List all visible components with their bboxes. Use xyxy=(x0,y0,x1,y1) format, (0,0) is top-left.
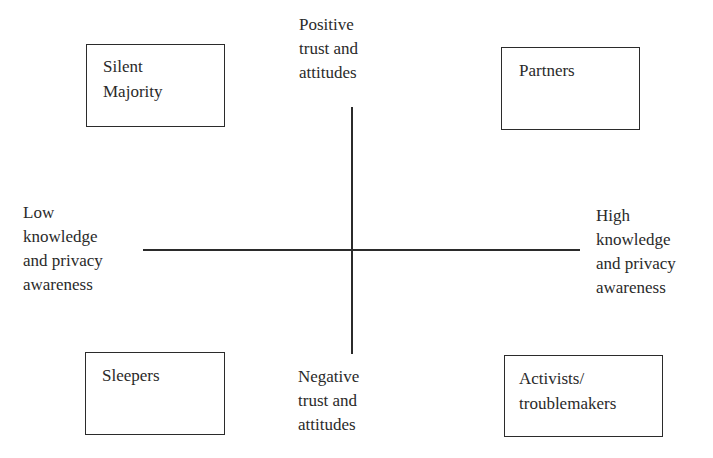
quadrant-box-activists: Activists/ troublemakers xyxy=(504,355,663,437)
vertical-axis-line xyxy=(351,107,353,354)
axis-label-negative-trust: Negative trust and attitudes xyxy=(298,365,359,437)
quadrant-label-activists: Activists/ troublemakers xyxy=(519,366,616,416)
quadrant-box-partners: Partners xyxy=(501,47,640,130)
axis-label-low-knowledge: Low knowledge and privacy awareness xyxy=(23,201,103,297)
horizontal-axis-line xyxy=(143,249,580,251)
quadrant-label-sleepers: Sleepers xyxy=(102,363,160,388)
quadrant-label-silent-majority: Silent Majority xyxy=(103,54,163,104)
quadrant-box-silent-majority: Silent Majority xyxy=(86,44,225,127)
axis-label-high-knowledge: High knowledge and privacy awareness xyxy=(596,204,676,300)
axis-label-positive-trust: Positive trust and attitudes xyxy=(299,13,358,85)
quadrant-box-sleepers: Sleepers xyxy=(85,352,225,435)
quadrant-label-partners: Partners xyxy=(519,58,575,83)
